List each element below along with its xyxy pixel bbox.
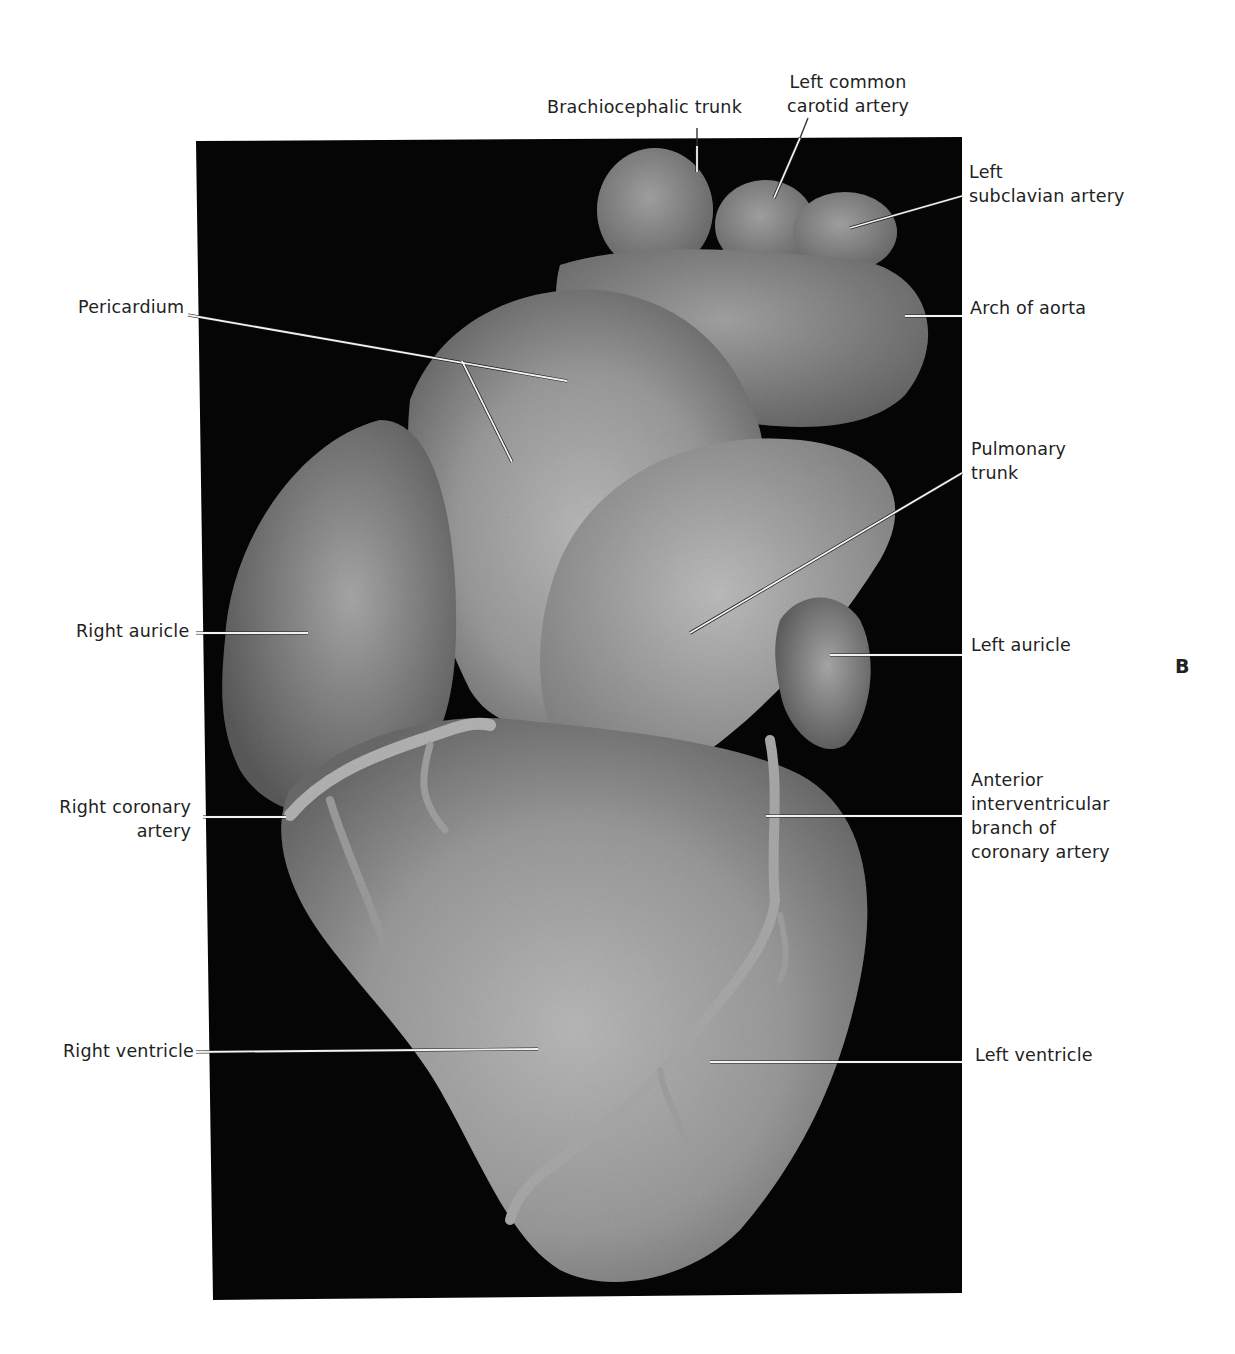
label-line: Pulmonary xyxy=(971,437,1066,461)
label-arch-of-aorta: Arch of aorta xyxy=(970,296,1086,320)
label-left-common-carotid-artery: Left common carotid artery xyxy=(778,70,918,118)
anatomical-figure: Brachiocephalic trunk Left common caroti… xyxy=(0,0,1235,1354)
label-left-auricle: Left auricle xyxy=(971,633,1071,657)
label-line: artery xyxy=(30,819,191,843)
label-line: coronary artery xyxy=(971,840,1110,864)
label-left-subclavian-artery: Left subclavian artery xyxy=(969,160,1125,208)
panel-letter: B xyxy=(1175,655,1189,677)
label-line: carotid artery xyxy=(778,94,918,118)
label-anterior-interventricular-branch: Anterior interventricular branch of coro… xyxy=(971,768,1110,864)
label-line: Anterior xyxy=(971,768,1110,792)
label-line: subclavian artery xyxy=(969,184,1125,208)
label-pericardium: Pericardium xyxy=(78,295,184,319)
label-line: Left common xyxy=(778,70,918,94)
label-right-auricle: Right auricle xyxy=(76,619,189,643)
label-pulmonary-trunk: Pulmonary trunk xyxy=(971,437,1066,485)
label-brachiocephalic-trunk: Brachiocephalic trunk xyxy=(547,95,742,119)
label-left-ventricle: Left ventricle xyxy=(975,1043,1093,1067)
label-line: trunk xyxy=(971,461,1066,485)
label-line: branch of xyxy=(971,816,1110,840)
label-line: Right coronary xyxy=(30,795,191,819)
label-line: interventricular xyxy=(971,792,1110,816)
label-right-ventricle: Right ventricle xyxy=(63,1039,194,1063)
label-right-coronary-artery: Right coronary artery xyxy=(30,795,191,843)
label-line: Left xyxy=(969,160,1125,184)
